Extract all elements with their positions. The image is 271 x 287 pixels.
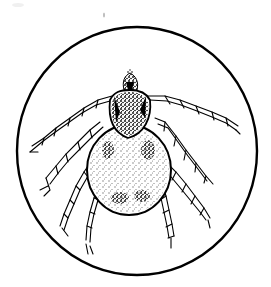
tick-illustration bbox=[0, 0, 271, 287]
leg-right-1 bbox=[148, 96, 240, 134]
tick-head bbox=[123, 69, 137, 90]
speck-marks bbox=[12, 3, 105, 18]
